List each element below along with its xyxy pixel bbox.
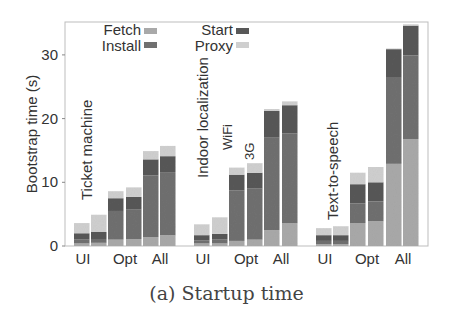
y-tick-label: 10: [41, 173, 58, 190]
bar-stack: [264, 109, 280, 246]
bar-segment-install: [74, 240, 90, 244]
bar-segment-start: [160, 156, 176, 172]
bar-stack: [212, 217, 228, 246]
bar-stack: [194, 224, 210, 246]
bar-segment-fetch: [264, 230, 280, 246]
bar-stack: [160, 146, 176, 246]
bar-segment-fetch: [282, 223, 298, 246]
bar-segment-start: [108, 198, 124, 211]
bar-segment-proxy: [91, 215, 107, 232]
bar-stack: [403, 24, 419, 246]
bar-segment-start: [316, 235, 332, 241]
legend-swatch: [236, 28, 249, 34]
figure-caption: (a) Startup time: [0, 282, 453, 304]
x-tick-label: All: [273, 250, 290, 267]
bar-stack: [91, 215, 107, 246]
bar-segment-install: [247, 189, 263, 240]
bar-stack: [368, 167, 384, 246]
bar-segment-start: [74, 233, 90, 239]
bar-segment-start: [194, 235, 210, 240]
legend-label: Install: [102, 37, 141, 54]
legend-item-proxy: Proxy: [195, 37, 249, 54]
bar-segment-start: [229, 175, 245, 191]
bar-stack: [333, 226, 349, 246]
bar-segment-install: [333, 241, 349, 244]
legend-swatch: [236, 42, 249, 48]
bar-stack: [247, 163, 263, 246]
bar-segment-fetch: [333, 244, 349, 246]
bar-stack: [143, 151, 159, 246]
bar-segment-fetch: [229, 241, 245, 246]
bar-segment-proxy: [160, 146, 176, 156]
legend-item-fetch: Fetch: [103, 21, 157, 38]
startup-time-chart: 0102030 UIOptAllUIOptAllUIOptAll Ticket …: [0, 0, 453, 325]
network-label-wifi: WiFi: [220, 124, 235, 150]
bar-stack: [74, 223, 90, 246]
y-tick-label: 0: [50, 237, 58, 254]
bar-segment-proxy: [74, 223, 90, 233]
bar-segment-proxy: [247, 163, 263, 173]
bar-segment-fetch: [403, 139, 419, 246]
bar-stack-area: [74, 24, 419, 246]
bar-segment-proxy: [333, 226, 349, 235]
x-tick-label: Opt: [234, 250, 259, 267]
bar-segment-fetch: [74, 243, 90, 246]
bar-stack: [282, 101, 298, 246]
x-tick-label: UI: [318, 250, 333, 267]
x-tick-label: UI: [76, 250, 91, 267]
bar-stack: [229, 168, 245, 246]
bar-segment-start: [264, 111, 280, 138]
bar-segment-fetch: [386, 164, 402, 246]
bar-segment-install: [403, 56, 419, 139]
bar-segment-start: [126, 197, 142, 210]
bar-segment-install: [229, 191, 245, 241]
bar-segment-start: [91, 232, 107, 239]
bar-segment-install: [108, 211, 124, 240]
x-axis: UIOptAllUIOptAllUIOptAll: [76, 250, 412, 267]
bar-segment-fetch: [350, 223, 366, 246]
bar-stack: [126, 187, 142, 246]
group-label: Text-to-speech: [324, 122, 341, 220]
bar-segment-fetch: [108, 240, 124, 246]
y-tick-label: 30: [41, 46, 58, 63]
bar-segment-install: [386, 78, 402, 164]
bar-segment-proxy: [368, 167, 384, 182]
bar-segment-install: [126, 210, 142, 239]
bar-segment-fetch: [143, 237, 159, 246]
bar-stack: [386, 49, 402, 246]
bar-segment-install: [212, 240, 228, 244]
legend-label: Proxy: [195, 37, 234, 54]
bar-segment-install: [264, 138, 280, 230]
bar-segment-proxy: [282, 101, 298, 105]
network-label-3g: 3G: [242, 143, 257, 160]
bar-segment-start: [386, 49, 402, 78]
bar-segment-start: [282, 105, 298, 133]
bar-segment-fetch: [247, 240, 263, 246]
bar-segment-install: [350, 203, 366, 223]
bar-stack: [316, 228, 332, 246]
legend-label: Fetch: [103, 21, 141, 38]
bar-segment-install: [160, 172, 176, 235]
bar-segment-proxy: [403, 24, 419, 25]
bar-segment-proxy: [143, 151, 159, 159]
y-axis-label: Bootstrap time (s): [23, 75, 40, 193]
bar-segment-start: [212, 234, 228, 240]
bar-segment-proxy: [194, 224, 210, 235]
legend-swatch: [144, 42, 157, 48]
bar-segment-install: [368, 201, 384, 221]
bar-segment-proxy: [229, 168, 245, 175]
bar-segment-fetch: [194, 243, 210, 246]
x-tick-label: Opt: [355, 250, 380, 267]
x-tick-label: Opt: [113, 250, 138, 267]
bar-segment-start: [143, 159, 159, 175]
bar-segment-proxy: [316, 228, 332, 235]
bar-segment-start: [368, 182, 384, 201]
bar-segment-install: [91, 239, 107, 243]
legend: FetchInstallStartProxy: [102, 21, 249, 54]
y-axis: 0102030: [41, 46, 65, 254]
bar-segment-fetch: [160, 235, 176, 246]
bar-segment-proxy: [212, 217, 228, 234]
bar-segment-proxy: [386, 49, 402, 50]
group-label: Indoor localization: [194, 57, 211, 178]
bar-segment-install: [316, 241, 332, 244]
